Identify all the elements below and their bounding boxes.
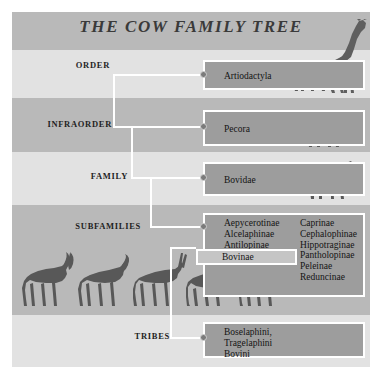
connector-trunk-3 (150, 177, 152, 228)
subfamily-item: Pantholopinae (300, 250, 357, 261)
connector-bovinae-horizontal (170, 247, 196, 249)
connector-trunk-2 (131, 126, 133, 178)
node-subfamilies: Aepycerotinae Alcelaphinae Antilopinae C… (203, 213, 365, 297)
node-tribes-bullet (200, 334, 207, 341)
node-family-bullet (200, 174, 207, 181)
subfamily-item: Alcelaphinae (224, 229, 290, 240)
sable-antelope-silhouette (78, 254, 132, 307)
subfamily-item: Peleinae (300, 261, 357, 272)
connector-bovinae-drop (170, 247, 172, 337)
tribe-item: Bovini (224, 349, 272, 360)
connector-infraorder-horizontal (113, 126, 205, 128)
subfamilies-column-right: Caprinae Cephalophinae Hippotraginae Pan… (300, 218, 357, 283)
subfamily-item: Cephalophinae (300, 229, 357, 240)
node-infraorder-label: Pecora (224, 123, 250, 136)
connector-order-horizontal (113, 74, 205, 76)
tribes-list: Boselaphini, Tragelaphini Bovini (224, 327, 272, 359)
subfamily-item: Reduncinae (300, 272, 357, 283)
rank-label-tribes: TRIBES (135, 331, 170, 341)
subfamily-item: Hippotraginae (300, 240, 357, 251)
rank-label-subfamilies: SUBFAMILIES (75, 221, 141, 231)
connector-trunk-1 (113, 74, 115, 128)
node-family-label: Bovidae (224, 174, 256, 187)
rank-label-family: FAMILY (91, 171, 128, 181)
node-order-label: Artiodactyla (224, 70, 271, 83)
rank-label-order: ORDER (76, 60, 110, 70)
rank-label-infraorder: INFRAORDER (47, 119, 112, 129)
connector-subfamilies-horizontal (150, 226, 205, 228)
node-family: Bovidae (203, 162, 365, 196)
tribe-item: Boselaphini, (224, 327, 272, 338)
oryx-silhouette (133, 253, 187, 307)
cow-family-tree-poster: THE COW FAMILY TREE (0, 0, 382, 380)
node-order-bullet (200, 71, 207, 78)
subfamily-highlight-bovinae: Bovinae (196, 249, 297, 265)
kudu-silhouette (22, 252, 76, 307)
node-subfamilies-bullet (200, 223, 207, 230)
node-infraorder: Pecora (203, 110, 365, 146)
node-infraorder-bullet (200, 123, 207, 130)
node-order: Artiodactyla (203, 60, 365, 90)
subfamily-item: Aepycerotinae (224, 218, 290, 229)
connector-family-horizontal (131, 177, 205, 179)
subfamily-highlight-label: Bovinae (222, 252, 254, 263)
poster-title: THE COW FAMILY TREE (12, 17, 370, 37)
node-tribes: Boselaphini, Tragelaphini Bovini (203, 322, 365, 358)
subfamily-item: Caprinae (300, 218, 357, 229)
tribe-item: Tragelaphini (224, 338, 272, 349)
